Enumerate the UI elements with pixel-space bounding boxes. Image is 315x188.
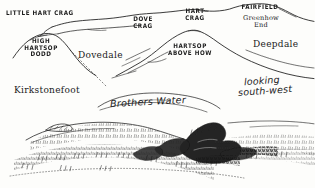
far-moor-line-2 — [250, 126, 298, 127]
dodd-descent-path — [70, 50, 106, 86]
lake-ripple-1 — [140, 100, 170, 101]
deepdale-slope — [246, 50, 314, 68]
fairfield-flank — [279, 9, 296, 17]
high-hartsop-dodd-ridge — [13, 33, 96, 75]
brothers-water-near-shore — [100, 102, 207, 112]
brothers-water-far-shore — [98, 93, 220, 109]
skyline-ridge-main — [52, 4, 314, 27]
ridge-hatch-b — [88, 29, 106, 30]
sketch-linework — [0, 0, 315, 188]
hartsop-above-how-ridge — [116, 30, 314, 78]
hartsop-lower-spur — [128, 52, 168, 73]
far-moor-line — [228, 121, 314, 124]
dovedale-slope-2 — [122, 58, 140, 66]
hartsop-lower-spur-2 — [148, 59, 166, 62]
little-hart-crag-spur — [58, 25, 141, 34]
panorama-sketch: LITTLE HART CRAG DOVE CRAG HART CRAG FAI… — [0, 0, 315, 188]
